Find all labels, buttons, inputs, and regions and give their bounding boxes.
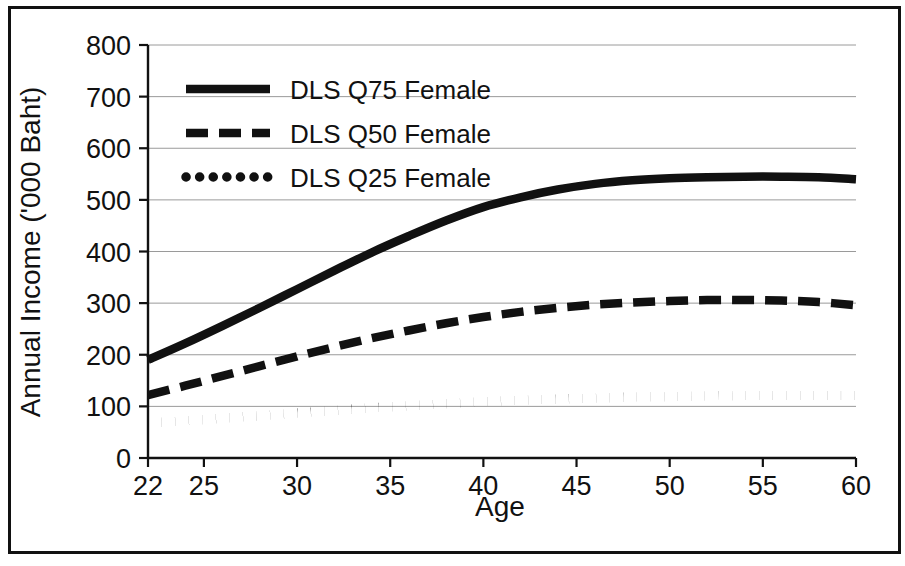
y-tick-label-700: 700 <box>86 83 131 113</box>
legend-group: DLS Q75 FemaleDLS Q50 FemaleDLS Q25 Fema… <box>186 75 491 193</box>
x-tick-label-35: 35 <box>375 471 405 501</box>
x-tick-label-22: 22 <box>133 471 163 501</box>
series-line-dls-q75-female <box>148 177 856 360</box>
series-group <box>148 177 856 423</box>
tickmarks-group <box>139 45 856 467</box>
legend-label-dls-q25-female: DLS Q25 Female <box>290 163 491 193</box>
y-axis-title: Annual Income ('000 Baht) <box>15 87 46 418</box>
y-tick-label-600: 600 <box>86 134 131 164</box>
figure-page: 222530354045505560 010020030040050060070… <box>0 0 905 566</box>
legend-label-dls-q50-female: DLS Q50 Female <box>290 119 491 149</box>
chart-area: 222530354045505560 010020030040050060070… <box>0 0 905 566</box>
x-tick-label-30: 30 <box>282 471 312 501</box>
y-tick-label-400: 400 <box>86 238 131 268</box>
y-tick-label-200: 200 <box>86 341 131 371</box>
y-tick-label-800: 800 <box>86 31 131 61</box>
x-tick-label-45: 45 <box>562 471 592 501</box>
y-tick-label-500: 500 <box>86 186 131 216</box>
x-tick-label-50: 50 <box>655 471 685 501</box>
x-axis-title: Age <box>475 491 525 522</box>
line-chart-svg: 222530354045505560 010020030040050060070… <box>0 0 905 566</box>
x-tick-label-55: 55 <box>748 471 778 501</box>
y-tick-label-100: 100 <box>86 392 131 422</box>
y-tick-labels-group: 0100200300400500600700800 <box>86 31 131 474</box>
legend-label-dls-q75-female: DLS Q75 Female <box>290 75 491 105</box>
y-tick-label-300: 300 <box>86 289 131 319</box>
x-tick-label-60: 60 <box>841 471 871 501</box>
y-tick-label-0: 0 <box>116 444 131 474</box>
x-tick-label-25: 25 <box>189 471 219 501</box>
series-line-dls-q25-female <box>148 395 856 422</box>
gridlines-group <box>148 45 856 406</box>
